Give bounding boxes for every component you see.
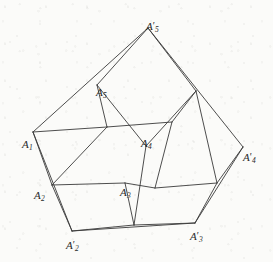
edge-group: [33, 28, 243, 231]
edge-spoke-B5-to-A3p: [195, 183, 217, 223]
label-base: A: [146, 20, 153, 32]
edge-outer-A1-to-A2p: [33, 132, 72, 231]
label-subscript: 2: [75, 244, 79, 253]
edge-spoke-A1-to-A2: [33, 132, 52, 185]
pentagon-line-drawing: [0, 0, 273, 262]
vertex-label-A4: A4: [141, 138, 152, 151]
vertex-label-A2: A2: [34, 190, 45, 203]
label-subscript: 4: [148, 142, 152, 151]
label-base: A: [243, 151, 250, 163]
vertex-label-A1: A1: [22, 139, 33, 152]
vertex-label-A2p: A′2: [66, 240, 79, 253]
edge-spoke-A2-to-A2p: [52, 185, 72, 231]
geometric-figure: A1A2A3A4A5A′2A′3A′4A′5: [0, 0, 273, 262]
edge-outer-A4p-to-A5p: [148, 28, 243, 147]
label-subscript: 5: [155, 25, 159, 34]
edge-spoke-A4-to-B3: [134, 146, 146, 225]
label-base: A: [22, 138, 29, 150]
label-base: A: [120, 186, 127, 198]
edge-spoke-B5-to-A4p: [217, 147, 243, 183]
vertex-label-A3p: A′3: [190, 231, 203, 244]
vertex-label-A5: A5: [96, 87, 107, 100]
vertex-label-A4p: A′4: [243, 152, 256, 165]
label-base: A: [34, 189, 41, 201]
edge-outer-A5p-to-A1: [33, 28, 148, 132]
label-base: A: [190, 230, 197, 242]
edge-spoke-A5p-to-B4: [148, 28, 196, 91]
edge-spoke-B5-to-B4: [196, 91, 217, 183]
edge-inner-A1p-to-A2: [52, 127, 107, 185]
label-base: A: [66, 239, 73, 251]
label-subscript: 1: [29, 143, 33, 152]
label-subscript: 3: [127, 191, 131, 200]
edge-spoke-B4-to-A4: [146, 91, 196, 146]
edge-inner-B1-to-A1p: [107, 122, 172, 127]
edge-spoke-A1-to-A1p: [33, 127, 107, 132]
edge-outer-A3p-to-A4p: [195, 147, 243, 223]
vertex-label-A3: A3: [120, 187, 131, 200]
edge-inner-B2-to-B1: [155, 122, 172, 188]
edge-spoke-A5p-to-A5: [97, 28, 148, 85]
label-subscript: 2: [41, 194, 45, 203]
label-base: A: [141, 137, 148, 149]
label-subscript: 3: [199, 235, 203, 244]
vertex-label-A5p: A′5: [146, 21, 159, 34]
label-subscript: 4: [252, 156, 256, 165]
edge-inner-A2-to-A3: [52, 183, 125, 185]
label-subscript: 5: [103, 91, 107, 100]
edge-spoke-B2-to-B5: [155, 183, 217, 188]
label-base: A: [96, 86, 103, 98]
edge-spoke-B4-to-B1: [172, 91, 196, 122]
